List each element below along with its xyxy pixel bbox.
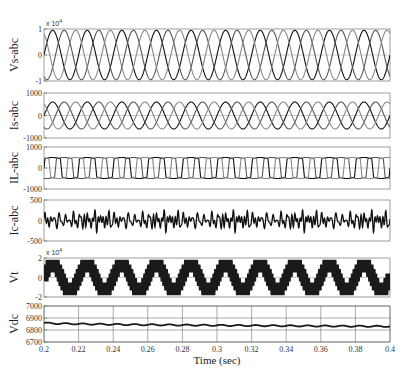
y-tick-label: 2	[38, 254, 42, 263]
y-tick-label: 1000	[26, 89, 42, 98]
y-tick-label: -1000	[23, 185, 42, 194]
y-tick-label: 6800	[26, 326, 42, 335]
y-tick-label: 0	[38, 217, 42, 226]
y-multiplier: x 104	[46, 247, 62, 256]
y-axis-label: Is-abc	[7, 101, 21, 130]
series-line-vt-a	[44, 264, 390, 291]
subplot-is: -100001000Is-abc	[7, 89, 390, 143]
x-tick-label: 0.26	[141, 345, 155, 354]
y-tick-label: 0	[38, 51, 42, 60]
subplot-vdc: 6700680069007000Vdc	[7, 302, 390, 347]
shared-x-axis: 0.20.220.240.260.280.30.320.340.360.380.…	[39, 345, 395, 354]
x-tick-label: 0.34	[279, 345, 293, 354]
x-tick-label: 0.36	[314, 345, 328, 354]
subplot-stack: -101x 104Vs-abc-100001000Is-abc-10000100…	[7, 18, 390, 347]
x-tick-label: 0.28	[175, 345, 189, 354]
y-axis-label: Vs-abc	[7, 38, 21, 72]
y-tick-label: 0	[38, 112, 42, 121]
subplot-il: -100001000IL-abc	[7, 143, 390, 194]
y-multiplier: x 104	[46, 18, 62, 27]
x-tick-label: 0.32	[245, 345, 259, 354]
y-tick-label: -500	[27, 237, 42, 246]
y-tick-label: -1000	[23, 134, 42, 143]
x-tick-label: 0.22	[72, 345, 86, 354]
y-axis-label: Vdc	[7, 314, 21, 334]
y-tick-label: 7000	[26, 302, 42, 311]
y-axis-label: Vt	[7, 271, 21, 284]
subplot-vs: -101x 104Vs-abc	[7, 18, 390, 86]
subplot-ic: -5000500Ic-abc	[7, 196, 390, 246]
x-tick-label: 0.4	[385, 345, 395, 354]
x-tick-label: 0.38	[348, 345, 362, 354]
y-tick-label: 500	[30, 196, 42, 205]
y-axis-label: IL-abc	[7, 152, 21, 184]
y-tick-label: -1	[35, 77, 42, 86]
figure: -101x 104Vs-abc-100001000Is-abc-10000100…	[0, 0, 408, 380]
y-tick-label: 6900	[26, 314, 42, 323]
y-tick-label: 1	[38, 25, 42, 34]
x-tick-label: 0.3	[212, 345, 222, 354]
y-tick-label: 1000	[26, 143, 42, 152]
subplot-vt: -202x 104Vt	[7, 247, 390, 302]
y-axis-label: Ic-abc	[7, 206, 21, 236]
y-tick-label: 0	[38, 164, 42, 173]
x-tick-label: 0.24	[106, 345, 120, 354]
x-axis-label: Time (sec)	[194, 354, 241, 367]
y-tick-label: 0	[38, 274, 42, 283]
y-tick-label: -2	[35, 293, 42, 302]
x-tick-label: 0.2	[39, 345, 49, 354]
